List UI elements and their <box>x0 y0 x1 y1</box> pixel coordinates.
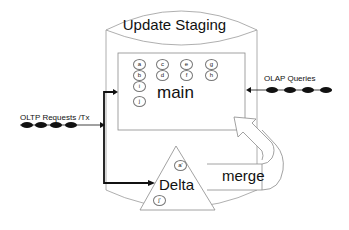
main-node: e <box>180 59 193 70</box>
title-update-staging: Update Staging <box>0 16 349 33</box>
delta-node: j' <box>153 195 166 206</box>
merge-arrow <box>234 117 274 164</box>
oltp-route <box>104 125 150 183</box>
olap-label: OLAP Queries <box>264 74 315 83</box>
main-label: main <box>157 83 194 103</box>
main-node: d <box>156 70 169 81</box>
main-node: j <box>133 96 146 107</box>
main-node: b <box>133 70 146 81</box>
delta-node: a' <box>174 160 187 171</box>
main-node: f <box>180 70 193 81</box>
main-node: c <box>156 59 169 70</box>
oltp-label: OLTP Requests /Tx <box>20 113 90 122</box>
delta-label: Delta <box>159 176 194 193</box>
main-node: h <box>205 70 218 81</box>
main-node: i <box>133 81 146 92</box>
merge-label: merge <box>222 167 265 184</box>
main-node: a <box>133 59 146 70</box>
main-node: g <box>205 59 218 70</box>
